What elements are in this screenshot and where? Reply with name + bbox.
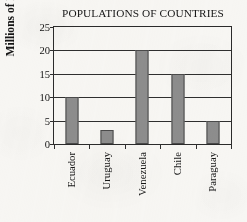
x-axis-category-label: Chile [171, 152, 183, 175]
x-axis-tick-mark [160, 144, 161, 149]
x-axis-category-label: Paraguay [206, 152, 218, 192]
y-axis-label: Millions of People [4, 0, 18, 64]
y-axis-tick-label: 15 [39, 68, 50, 79]
x-axis-label-slot: Venezuela [134, 152, 150, 216]
plot-area: 0510152025 [53, 26, 232, 145]
x-axis-category-label: Ecuador [65, 152, 77, 188]
bar-cell [196, 27, 231, 144]
bar-cell [125, 27, 160, 144]
bar[interactable] [65, 97, 78, 144]
bar[interactable] [171, 74, 184, 144]
bar-series [54, 27, 231, 144]
x-axis-tick-mark [196, 144, 197, 149]
x-axis-category-label: Venezuela [136, 152, 148, 196]
bar[interactable] [101, 130, 114, 144]
x-axis-labels: EcuadorUruguayVenezuelaChileParaguay [53, 152, 232, 218]
y-axis-tick-label: 10 [39, 92, 50, 103]
y-axis-tick-label: 25 [39, 22, 50, 33]
x-axis-label-slot: Ecuador [63, 152, 79, 216]
x-axis-label-slot: Paraguay [204, 152, 220, 216]
bar-chart-figure: POPULATIONS OF COUNTRIES Millions of Peo… [0, 0, 247, 222]
x-axis-label-slot: Chile [169, 152, 185, 216]
x-axis-tick-mark [54, 144, 55, 149]
bar[interactable] [136, 50, 149, 144]
bar-cell [54, 27, 89, 144]
x-axis-tick-mark [231, 144, 232, 149]
x-axis-tick-mark [125, 144, 126, 149]
bar[interactable] [207, 121, 220, 144]
x-axis-tick-mark [89, 144, 90, 149]
bar-cell [89, 27, 124, 144]
bar-cell [160, 27, 195, 144]
x-axis-label-slot: Uruguay [98, 152, 114, 216]
x-axis-category-label: Uruguay [100, 152, 112, 189]
chart-title: POPULATIONS OF COUNTRIES [53, 7, 233, 19]
y-axis-tick-label: 20 [39, 45, 50, 56]
